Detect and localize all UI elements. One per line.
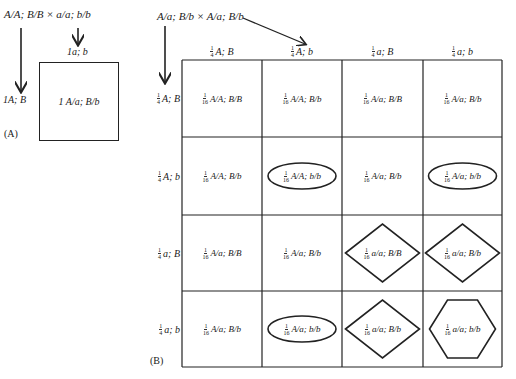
genotype-label: A/a; B/B xyxy=(371,94,402,104)
column-header-gamete: 14A; b xyxy=(262,44,342,58)
fraction: 14 xyxy=(158,247,161,260)
genotype-label: a/a; B/b xyxy=(372,324,401,334)
fraction: 116 xyxy=(202,170,208,183)
fraction: 116 xyxy=(363,170,369,183)
punnett-cell: 116a/a; B/B xyxy=(342,215,423,291)
punnett-cell: 116A/A; B/b xyxy=(262,60,342,137)
panel-a-label: (A) xyxy=(4,128,18,139)
fraction: 116 xyxy=(364,323,370,336)
punnett-cell: 116A/a; b/b xyxy=(423,137,502,215)
punnett-cell: 116A/a; B/b xyxy=(423,60,502,137)
gamete-label: a; b xyxy=(457,46,473,57)
genotype-label: A/a; B/b xyxy=(211,324,241,334)
fraction: 116 xyxy=(202,92,208,105)
column-header-gamete: 14a; B xyxy=(342,44,423,58)
punnett-cell: 116A/A; b/b xyxy=(262,137,342,215)
genotype-label: A/a; B/B xyxy=(210,248,241,258)
genotype-label: A/a; B/b xyxy=(371,171,401,181)
fraction: 14 xyxy=(372,45,375,58)
gamete-label: a; b xyxy=(164,324,180,335)
genotype-label: a/a; B/b xyxy=(452,248,481,258)
fraction: 14 xyxy=(452,45,455,58)
fraction: 116 xyxy=(444,323,450,336)
genotype-label: A/a; b/b xyxy=(291,324,320,334)
genotype-label: A/A; B/b xyxy=(210,171,241,181)
arrow-diagonal-icon xyxy=(243,18,305,44)
genotype-label: A/a; b/b xyxy=(452,171,481,181)
fraction: 14 xyxy=(159,323,162,336)
punnett-cell: 116A/a; B/b xyxy=(262,215,342,291)
punnett-cell: 116A/A; B/b xyxy=(182,137,262,215)
row-header-gamete: 14A; b xyxy=(140,137,180,215)
fraction: 116 xyxy=(283,170,289,183)
panel-a-cell-genotype: 1 A/a; B/b xyxy=(59,96,100,107)
genotype-label: a/a; B/B xyxy=(371,248,401,258)
punnett-cell: 116a/a; B/b xyxy=(423,215,502,291)
punnett-cell: 116a/a; b/b xyxy=(423,291,502,367)
row-header-gamete: 14a; B xyxy=(140,215,180,291)
panel-b-cross: A/a; B/b × A/a; B/b xyxy=(157,10,244,22)
fraction: 116 xyxy=(283,247,289,260)
genotype-label: A/A; B/b xyxy=(290,94,321,104)
fraction: 116 xyxy=(203,323,209,336)
fraction: 14 xyxy=(210,45,213,58)
fraction: 116 xyxy=(444,247,450,260)
panel-a-cross: A/A; B/B × a/a; b/b xyxy=(4,8,91,20)
fraction: 116 xyxy=(283,323,289,336)
genotype-label: A/a; B/b xyxy=(291,248,321,258)
punnett-cell: 116a/a; B/b xyxy=(342,291,423,367)
fraction: 116 xyxy=(202,247,208,260)
column-header-gamete: 14A; B xyxy=(182,44,262,58)
row-header-gamete: 14a; b xyxy=(140,291,180,367)
fraction: 116 xyxy=(282,92,288,105)
fraction: 14 xyxy=(291,45,294,58)
panel-a-row-gamete: 1A; B xyxy=(3,94,26,105)
punnett-cell: 116A/a; B/B xyxy=(342,60,423,137)
genotype-label: A/A; b/b xyxy=(291,171,321,181)
fraction: 14 xyxy=(158,170,161,183)
gamete-label: a; B xyxy=(163,248,180,259)
punnett-cell: 116A/a; B/B xyxy=(182,215,262,291)
gamete-label: A; b xyxy=(296,46,313,57)
punnett-cell: 116A/a; B/b xyxy=(182,291,262,367)
fraction: 116 xyxy=(363,92,369,105)
fraction: 116 xyxy=(444,170,450,183)
row-header-gamete: 14A; B xyxy=(140,60,180,137)
fraction: 14 xyxy=(157,92,160,105)
genotype-label: a/a; b/b xyxy=(452,324,480,334)
column-header-gamete: 14a; b xyxy=(423,44,502,58)
punnett-cell: 116A/a; B/b xyxy=(342,137,423,215)
gamete-label: A; B xyxy=(215,46,233,57)
gamete-label: A; b xyxy=(163,171,180,182)
punnett-cell: 116A/A; B/B xyxy=(182,60,262,137)
panel-a-punnett-cell: 1 A/a; B/b xyxy=(39,62,119,141)
punnett-cell: 116A/a; b/b xyxy=(262,291,342,367)
fraction: 116 xyxy=(363,247,369,260)
fraction: 116 xyxy=(443,92,449,105)
gamete-label: A; B xyxy=(162,93,180,104)
gamete-label: a; B xyxy=(377,46,394,57)
genotype-label: A/a; B/b xyxy=(451,94,481,104)
genotype-label: A/A; B/B xyxy=(210,94,242,104)
panel-a-col-gamete: 1a; b xyxy=(67,46,88,57)
